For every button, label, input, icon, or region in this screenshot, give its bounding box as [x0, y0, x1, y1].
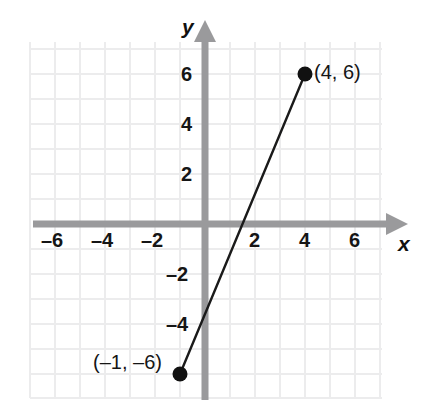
data-point-marker — [298, 67, 313, 82]
data-point-marker — [173, 367, 188, 382]
y-axis-arrow-icon — [194, 20, 216, 42]
point-label-4-6: (4, 6) — [314, 62, 361, 82]
graph-canvas — [0, 0, 427, 405]
x-tick-label-neg6: –6 — [41, 230, 63, 250]
x-tick-label-neg4: –4 — [91, 230, 113, 250]
x-axis-label: x — [398, 233, 410, 254]
point-label-neg1-neg6: (–1, –6) — [93, 352, 162, 372]
y-tick-label-pos6: 6 — [181, 64, 192, 84]
y-tick-label-neg2: –2 — [166, 264, 188, 284]
x-tick-label-pos6: 6 — [349, 230, 360, 250]
x-tick-label-neg2: –2 — [141, 230, 163, 250]
y-tick-label-pos4: 4 — [181, 114, 192, 134]
y-axis-label: y — [182, 16, 194, 37]
y-axis — [194, 20, 216, 400]
x-tick-label-pos2: 2 — [249, 230, 260, 250]
y-tick-label-pos2: 2 — [181, 164, 192, 184]
x-tick-label-pos4: 4 — [299, 230, 310, 250]
coordinate-plane-figure: –6 –4 –2 2 4 6 6 4 2 –2 –4 y x (4, 6) (–… — [0, 0, 427, 405]
y-tick-label-neg4: –4 — [166, 314, 188, 334]
